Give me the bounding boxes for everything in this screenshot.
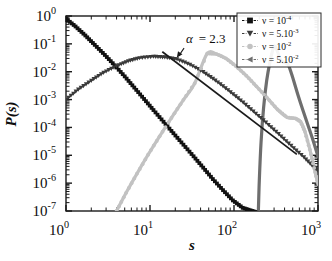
- marker-circle: [309, 152, 313, 156]
- marker-circle: [135, 172, 139, 176]
- marker-circle: [164, 125, 168, 129]
- marker-circle: [307, 143, 311, 147]
- marker-circle: [304, 134, 308, 138]
- legend-marker-circle: [247, 44, 253, 50]
- marker-circle: [149, 148, 153, 152]
- marker-circle: [311, 161, 315, 165]
- marker-circle: [132, 177, 136, 181]
- marker-circle: [310, 157, 314, 161]
- marker-circle: [190, 86, 194, 90]
- marker-circle: [306, 139, 310, 143]
- marker-circle: [170, 116, 174, 120]
- marker-circle: [273, 105, 277, 109]
- marker-circle: [117, 205, 121, 209]
- pss-distribution-chart: 100101102103 10010-110-210-310-410-510-6…: [0, 0, 332, 261]
- marker-circle: [155, 139, 159, 143]
- marker-circle: [143, 158, 147, 162]
- marker-circle: [193, 82, 197, 86]
- marker-circle: [314, 174, 318, 178]
- marker-circle: [122, 195, 126, 199]
- marker-circle: [187, 90, 191, 94]
- marker-circle: [173, 111, 177, 115]
- marker-circle: [202, 59, 206, 63]
- legend: ν = 10-4ν = 5.10-3ν = 10-2ν = 5.10-2: [237, 13, 321, 67]
- marker-circle: [270, 102, 274, 106]
- x-axis-title: s: [188, 237, 195, 253]
- marker-circle: [158, 134, 162, 138]
- marker-circle: [141, 162, 145, 166]
- marker-circle: [308, 148, 312, 152]
- marker-circle: [313, 170, 317, 174]
- marker-circle: [312, 166, 316, 170]
- marker-circle: [182, 98, 186, 102]
- marker-circle: [268, 99, 272, 103]
- marker-circle: [127, 186, 131, 190]
- y-axis-title: P(s): [3, 102, 20, 127]
- marker-circle: [130, 181, 134, 185]
- marker-circle: [176, 107, 180, 111]
- marker-circle: [138, 167, 142, 171]
- marker-circle: [184, 94, 188, 98]
- marker-circle: [124, 191, 128, 195]
- marker-circle: [199, 67, 203, 71]
- marker-circle: [161, 130, 165, 134]
- legend-marker-square: [247, 18, 253, 24]
- alpha-annotation-label: α = 2.3: [186, 31, 225, 46]
- marker-circle: [119, 200, 123, 204]
- marker-circle: [152, 144, 156, 148]
- marker-circle: [167, 121, 171, 125]
- marker-circle: [265, 95, 269, 99]
- marker-circle: [179, 102, 183, 106]
- marker-circle: [146, 153, 150, 157]
- marker-circle: [303, 130, 307, 134]
